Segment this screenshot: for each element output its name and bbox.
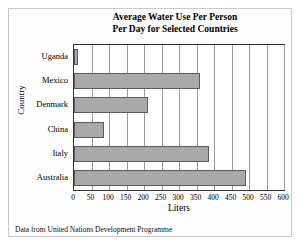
x-tick-label: 50	[87, 193, 95, 202]
bar	[74, 49, 78, 65]
bar-row	[74, 170, 284, 186]
y-tick-label: Denmark	[36, 99, 68, 109]
bar	[74, 122, 104, 138]
y-tick-label: Italy	[52, 148, 68, 158]
gridline	[284, 45, 285, 190]
source-caption: Data from United Nations Development Pro…	[15, 225, 172, 234]
chart-title: Average Water Use Per Person Per Day for…	[61, 12, 289, 35]
x-tick-label: 350	[190, 193, 201, 202]
x-tick-label: 150	[120, 193, 131, 202]
plot-area	[73, 44, 285, 191]
x-tick-label: 300	[172, 193, 183, 202]
y-tick-label: Australia	[37, 172, 68, 182]
x-tick-label: 400	[207, 193, 218, 202]
bar-row	[74, 49, 284, 65]
x-axis-label: Liters	[73, 203, 285, 213]
bar	[74, 170, 246, 186]
x-tick-label: 550	[260, 193, 271, 202]
x-tick-label: 500	[242, 193, 253, 202]
chart-title-line-1: Average Water Use Per Person	[61, 12, 289, 24]
bar-series	[74, 45, 284, 190]
bar-row	[74, 146, 284, 162]
bar	[74, 146, 209, 162]
x-tick-label: 250	[155, 193, 166, 202]
y-axis-tick-labels: UgandaMexicoDenmarkChinaItalyAustralia	[9, 44, 71, 191]
y-tick-label: China	[48, 124, 68, 134]
x-tick-label: 450	[225, 193, 236, 202]
chart-figure: Average Water Use Per Person Per Day for…	[8, 8, 292, 237]
y-tick-label: Uganda	[42, 51, 68, 61]
bar	[74, 73, 200, 89]
bar-row	[74, 73, 284, 89]
bar	[74, 97, 148, 113]
bar-row	[74, 122, 284, 138]
y-tick-label: Mexico	[42, 75, 68, 85]
chart-title-line-2: Per Day for Selected Countries	[61, 24, 289, 36]
x-tick-label: 100	[102, 193, 113, 202]
bar-row	[74, 97, 284, 113]
x-tick-label: 600	[277, 193, 288, 202]
x-tick-label: 0	[71, 193, 75, 202]
x-tick-label: 200	[137, 193, 148, 202]
